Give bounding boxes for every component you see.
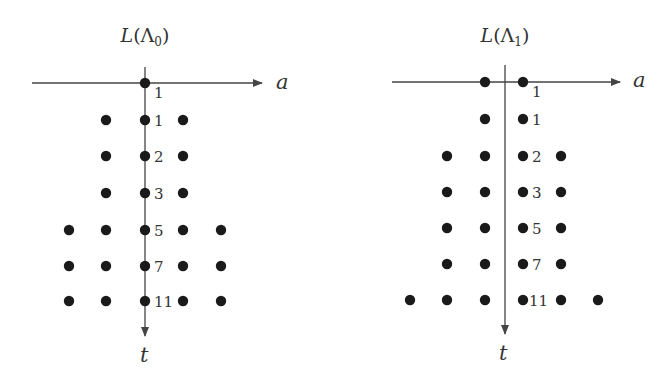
weight-dot [442, 187, 452, 197]
multiplicity-label: 1 [154, 84, 164, 102]
weight-dot [556, 295, 566, 305]
weight-dot [405, 295, 415, 305]
weight-dot [178, 188, 188, 198]
multiplicity-label: 1 [532, 111, 542, 129]
weight-dot [480, 259, 490, 269]
weight-dot [518, 114, 528, 124]
weight-dot [178, 261, 188, 271]
multiplicity-label: 2 [532, 148, 542, 166]
panel-l-lambda-0: L(Λ0)at11235711 [32, 24, 289, 367]
weight-dot [518, 77, 528, 87]
weight-dot [442, 223, 452, 233]
multiplicity-label: 5 [532, 220, 542, 238]
multiplicity-label: 7 [532, 256, 542, 274]
weight-diagram-canvas: L(Λ0)at11235711 L(Λ1)at11235711 [0, 0, 669, 381]
weight-dot [140, 296, 150, 306]
weight-dot [480, 187, 490, 197]
weight-dot [216, 225, 226, 235]
weight-dot [442, 151, 452, 161]
weight-dot [140, 225, 150, 235]
weight-dot [518, 187, 528, 197]
multiplicity-label: 1 [154, 112, 164, 130]
multiplicity-label: 5 [154, 222, 164, 240]
weight-dot [140, 151, 150, 161]
weight-dot [101, 225, 111, 235]
weight-dot [518, 151, 528, 161]
weight-dot [518, 259, 528, 269]
weight-dot [178, 225, 188, 235]
weight-dot [178, 115, 188, 125]
weight-dot [556, 187, 566, 197]
multiplicity-label: 2 [154, 148, 164, 166]
a-axis-label: a [276, 70, 289, 94]
panel-l-lambda-1: L(Λ1)at11235711 [392, 24, 646, 365]
weight-dot [480, 114, 490, 124]
weight-dot [140, 78, 150, 88]
weight-dot [140, 188, 150, 198]
weight-dot [64, 261, 74, 271]
weight-dot [442, 259, 452, 269]
weight-dot [140, 261, 150, 271]
panel-title: L(Λ1) [480, 24, 530, 49]
multiplicity-label: 3 [154, 185, 164, 203]
weight-dot [480, 223, 490, 233]
weight-dot [216, 261, 226, 271]
weight-dot [101, 261, 111, 271]
multiplicity-label: 11 [529, 292, 548, 310]
weight-dot [480, 77, 490, 87]
multiplicity-label: 3 [532, 184, 542, 202]
t-axis-label: t [140, 343, 149, 367]
weight-dot [556, 223, 566, 233]
multiplicity-label: 11 [154, 293, 173, 311]
weight-dot [442, 295, 452, 305]
weight-dot [101, 188, 111, 198]
weight-dot [64, 296, 74, 306]
weight-dot [216, 296, 226, 306]
multiplicity-label: 7 [154, 258, 164, 276]
weight-dot [140, 115, 150, 125]
weight-dot [64, 225, 74, 235]
weight-dot [178, 296, 188, 306]
panel-title: L(Λ0) [120, 24, 170, 49]
weight-dot [101, 115, 111, 125]
weight-dot [480, 295, 490, 305]
weight-dot [178, 151, 188, 161]
weight-dot [518, 295, 528, 305]
weight-dot [593, 295, 603, 305]
weight-dot [101, 296, 111, 306]
weight-dot [101, 151, 111, 161]
a-axis-label: a [633, 68, 646, 92]
weight-dot [556, 259, 566, 269]
t-axis-label: t [499, 341, 508, 365]
weight-dot [556, 151, 566, 161]
multiplicity-label: 1 [532, 83, 542, 101]
weight-dot [480, 151, 490, 161]
weight-dot [518, 223, 528, 233]
